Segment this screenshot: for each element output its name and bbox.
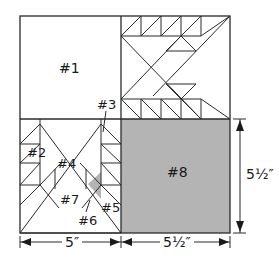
piece-label-1: #1 — [59, 61, 80, 75]
piece-label-5: #5 — [101, 201, 120, 214]
top-right-block — [121, 16, 230, 119]
quilt-diagram — [0, 0, 279, 259]
dimension-bottom-right: 5½″ — [160, 235, 194, 249]
piece-label-2: #2 — [27, 146, 46, 159]
piece-6-fill — [88, 172, 101, 199]
piece-label-8: #8 — [167, 165, 188, 179]
dimension-bottom-left: 5″ — [62, 235, 82, 249]
piece-label-4: #4 — [57, 157, 76, 170]
piece-label-7: #7 — [60, 193, 79, 206]
piece-label-3: #3 — [97, 98, 116, 111]
dimension-right-height: 5½″ — [246, 167, 274, 181]
piece-label-6: #6 — [78, 214, 97, 227]
